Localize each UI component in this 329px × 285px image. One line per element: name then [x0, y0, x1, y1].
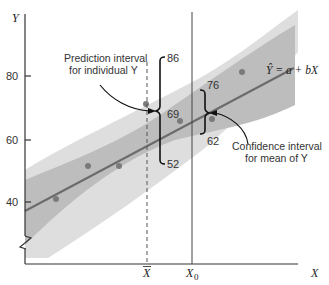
x0-label: X 0: [185, 266, 199, 282]
prediction-annotation-line1: Prediction interval: [64, 52, 147, 64]
data-point: [209, 116, 215, 122]
prediction-lower-value: 52: [167, 158, 179, 170]
y-tick-label-40: 40: [6, 196, 18, 208]
confidence-upper-value: 76: [207, 79, 219, 91]
prediction-upper-value: 86: [167, 52, 179, 64]
data-point: [143, 101, 149, 107]
svg-text:X: X: [142, 266, 151, 280]
confidence-lower-value: 62: [207, 135, 219, 147]
regression-interval-diagram: Y X 80 60 40 X X 0 Ŷ = a + bX Prediction…: [0, 0, 329, 285]
data-point: [239, 69, 245, 75]
svg-text:0: 0: [194, 272, 199, 282]
prediction-annotation-line2: for individual Y: [69, 64, 138, 76]
regression-equation-label: Ŷ = a + bX: [266, 63, 319, 76]
x-bar-label: X: [142, 266, 151, 280]
svg-text:X: X: [185, 266, 194, 280]
confidence-annotation-line1: Confidence interval: [232, 140, 322, 152]
data-point: [116, 163, 122, 169]
y-tick-label-80: 80: [6, 70, 18, 82]
data-point: [53, 196, 59, 202]
data-point: [85, 163, 91, 169]
prediction-arrow: [100, 85, 150, 111]
y-axis-label: Y: [12, 11, 20, 25]
prediction-center-value: 69: [167, 108, 179, 120]
confidence-annotation-line2: for mean of Y: [245, 152, 308, 164]
y-tick-label-60: 60: [6, 134, 18, 146]
x-axis-label: X: [310, 266, 319, 280]
